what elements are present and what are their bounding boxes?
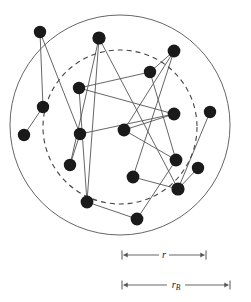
graph-node (192, 162, 204, 174)
graph-node (64, 159, 76, 171)
graph-node (168, 45, 181, 58)
graph-edge (137, 160, 176, 219)
graph-node (204, 106, 216, 118)
graph-node (73, 82, 85, 94)
graph-node (144, 66, 156, 78)
circles-layer (10, 15, 230, 235)
dimension-label-subscript: B (176, 284, 181, 293)
graph-node (168, 108, 181, 121)
graph-edge (87, 202, 137, 219)
graph-node (34, 26, 46, 38)
dimension-rB: rB (122, 279, 230, 292)
graph-node (81, 196, 94, 209)
graph-node (170, 154, 183, 167)
nodes-layer (18, 26, 216, 226)
graph-node (131, 213, 144, 226)
graph-node (118, 124, 131, 137)
graph-node (74, 128, 86, 140)
dimension-r: r (122, 249, 206, 260)
measurements-layer: rrB (122, 249, 230, 292)
graph-edge (124, 51, 174, 130)
dimension-arrowhead-right (200, 253, 204, 258)
graph-edge (79, 88, 174, 114)
dimension-label: rB (172, 279, 181, 292)
graph-edge (133, 177, 178, 189)
graph-node (171, 182, 184, 195)
graph-edge (79, 88, 87, 202)
graph-edge (99, 38, 178, 189)
dimension-label: r (162, 249, 167, 260)
graph-node (92, 31, 105, 44)
graph-edge (40, 32, 80, 134)
graph-edge (178, 112, 210, 189)
dimension-arrowhead-left (124, 253, 128, 258)
dimension-arrowhead-right (224, 283, 228, 288)
dimension-label-base: r (162, 249, 167, 260)
figure-container: rrB (0, 0, 251, 302)
graph-edge (40, 32, 43, 107)
graph-node (37, 101, 49, 113)
dimension-arrowhead-left (124, 283, 128, 288)
diagram-canvas: rrB (0, 0, 251, 302)
graph-node (18, 129, 30, 141)
graph-node (127, 171, 140, 184)
